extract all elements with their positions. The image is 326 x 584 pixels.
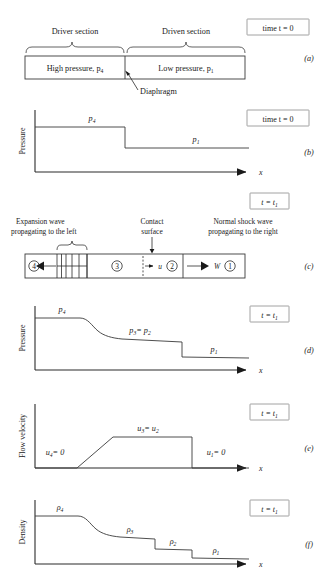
panel-e-u2-sub: 2 — [156, 428, 159, 434]
low-pressure-label: Low pressure, p1 — [158, 64, 214, 74]
panel-b-p1-sub: 1 — [197, 139, 200, 145]
panel-label-c: (c) — [304, 262, 313, 271]
contact-velocity-label: u — [158, 262, 162, 271]
panel-e-label-u4: u4= 0 — [46, 448, 65, 458]
high-pressure-sub: 4 — [101, 68, 104, 74]
region-4-label: 4 — [32, 262, 36, 271]
time-box-a-value: time t = 0 — [263, 24, 294, 33]
panel-d-x-axis-label: x — [258, 366, 263, 375]
panel-b-pressure-curve — [35, 127, 249, 148]
expansion-arrow-head — [36, 261, 44, 270]
panel-f-y-axis-label: Density — [18, 520, 27, 545]
panel-b: Pressure x p4 p1 time t = 0 (b) — [18, 110, 314, 177]
expansion-caption-line2: propagating to the left — [11, 227, 77, 236]
panel-e-u1-eq: = 0 — [214, 448, 226, 457]
shock-tube-figure: Driver section Driven section High press… — [0, 0, 326, 584]
panel-label-a: (a) — [304, 54, 314, 63]
time-box-f-sub: 1 — [275, 509, 278, 515]
panel-f-rho3-sub: 3 — [130, 529, 134, 535]
panel-d-p4-sub: 4 — [63, 309, 66, 315]
panel-e-y-axis-label: Flow velocity — [18, 414, 27, 458]
low-pressure-sub: 1 — [211, 68, 214, 74]
panel-f-x-axis-label: x — [258, 560, 263, 569]
panel-f-label-rho4: ρ4 — [56, 503, 64, 513]
panel-e: Flow velocity x u4= 0 u3= u2 u1= 0 t = t… — [18, 404, 314, 473]
panel-f-label-rho3: ρ3 — [126, 525, 134, 535]
driven-section-label: Driven section — [162, 27, 210, 36]
time-box-c-value: t = t — [261, 198, 276, 207]
panel-b-label-p1: p1 — [192, 135, 200, 145]
panel-d-label-p4: p4 — [58, 305, 66, 315]
high-pressure-text: High pressure, p — [47, 64, 101, 73]
contact-caption-line2: surface — [141, 227, 163, 236]
contact-surface-arrow — [150, 249, 155, 254]
high-pressure-label: High pressure, p4 — [47, 64, 104, 74]
brace-driven-section — [127, 42, 245, 53]
time-box-b-value: time t = 0 — [263, 115, 294, 124]
panel-d-p2-sub: 2 — [148, 330, 151, 336]
panel-f-label-rho2: ρ2 — [169, 537, 177, 547]
panel-label-b: (b) — [304, 148, 314, 157]
contact-caption-line1: Contact — [141, 217, 165, 226]
panel-e-label-u1: u1= 0 — [207, 448, 226, 458]
panel-f-rho2-sub: 2 — [174, 541, 177, 547]
panel-b-x-axis-label: x — [258, 168, 263, 177]
panel-f-label-rho1: ρ1 — [212, 546, 220, 556]
panel-b-p4-sub: 4 — [93, 118, 96, 124]
panel-e-u4-eq: = 0 — [53, 448, 65, 457]
region-1-label: 1 — [228, 262, 232, 271]
expansion-fan — [57, 254, 87, 278]
region-2-label: 2 — [170, 262, 174, 271]
time-box-d-value: t = t — [261, 311, 276, 320]
time-box-c-sub: 1 — [275, 202, 278, 208]
diaphragm-label: Diaphragm — [140, 87, 177, 96]
panel-f-rho1-sub: 1 — [217, 550, 220, 556]
panel-e-label-u3u2: u3= u2 — [137, 424, 159, 434]
time-box-d-sub: 1 — [275, 315, 278, 321]
panel-d-label-p1: p1 — [210, 345, 218, 355]
region-3-label: 3 — [115, 262, 119, 271]
shock-speed-arrow-head — [201, 261, 209, 270]
panel-label-d: (d) — [304, 346, 314, 355]
shock-caption-line1: Normal shock wave — [213, 217, 273, 226]
panel-d-p3-eq: = p — [136, 326, 148, 335]
time-box-e-sub: 1 — [275, 413, 278, 419]
panel-d-label-p3p2: p3= p2 — [128, 326, 151, 336]
panel-e-x-axis-label: x — [258, 464, 263, 473]
panel-d: Pressure x p4 p3= p2 p1 t = t1 (d) — [18, 305, 314, 375]
panel-b-y-axis-label: Pressure — [18, 127, 27, 155]
panel-label-e: (e) — [304, 444, 313, 453]
panel-label-f: (f) — [305, 540, 313, 549]
shock-caption-line2: propagating to the right — [208, 227, 279, 236]
time-box-a-text: time t = 0 — [263, 24, 294, 33]
low-pressure-text: Low pressure, p — [158, 64, 211, 73]
time-box-b-text: time t = 0 — [263, 115, 294, 124]
driver-section-label: Driver section — [52, 27, 99, 36]
panel-b-label-p4: p4 — [88, 114, 96, 124]
panel-d-p1-sub: 1 — [215, 349, 218, 355]
expansion-caption-line1: Expansion wave — [16, 217, 65, 226]
panel-d-y-axis-label: Pressure — [18, 324, 27, 352]
panel-f: Density x ρ4 ρ3 ρ2 ρ1 t = t1 (f) — [18, 500, 313, 569]
time-box-e-value: t = t — [261, 409, 276, 418]
brace-expansion-fan — [57, 241, 87, 250]
panel-a: Driver section Driven section High press… — [25, 19, 314, 96]
shock-speed-label: W — [214, 262, 221, 271]
panel-f-rho4-sub: 4 — [61, 507, 64, 513]
panel-c: t = t1 Expansion wave propagating to the… — [11, 193, 314, 278]
panel-e-u3-eq: = u — [144, 424, 156, 433]
time-box-f-value: t = t — [261, 505, 276, 514]
diaphragm-callout-arrow — [125, 71, 130, 76]
brace-driver-section — [26, 42, 124, 53]
figure-svg: Driver section Driven section High press… — [0, 0, 326, 584]
